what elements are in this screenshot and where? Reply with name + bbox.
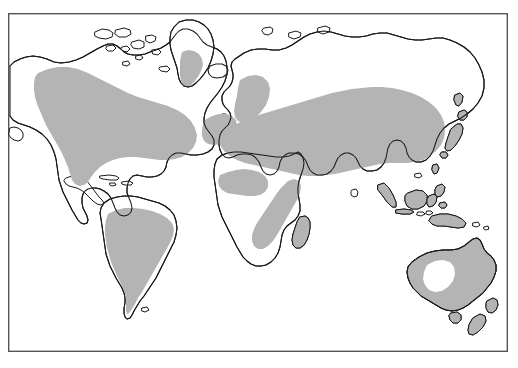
world-distribution-map (0, 0, 518, 368)
svalbard-island (262, 27, 273, 35)
iceland-outline (208, 64, 228, 78)
arctic-island-j (159, 66, 170, 72)
range-java (396, 209, 414, 214)
arctic-island-b (115, 28, 131, 37)
range-tasmania (449, 312, 461, 323)
range-japan-kyushu (440, 152, 448, 158)
arctic-island-c (131, 40, 144, 49)
arctic-island-a (95, 29, 113, 39)
solomon-small-island (473, 222, 480, 227)
pacific-small-island (484, 226, 489, 230)
jamaica-island (110, 183, 116, 186)
arctic-island-e (106, 45, 116, 51)
range-west-africa (218, 169, 268, 196)
map-canvas (0, 0, 518, 368)
arctic-island-i (123, 61, 130, 66)
range-borneo (405, 190, 427, 209)
cuba-island (100, 175, 119, 180)
arctic-island-g (136, 55, 143, 60)
sri-lanka-island (351, 189, 358, 197)
range-philippines-south (439, 202, 447, 208)
hainan-island (415, 173, 422, 178)
